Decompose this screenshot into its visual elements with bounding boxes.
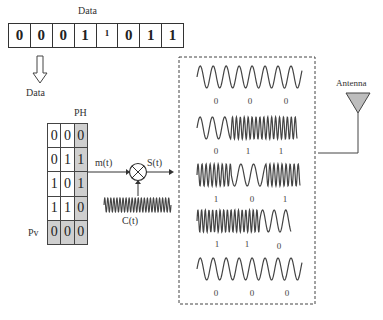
waveform-bit-label: 1 (279, 146, 284, 156)
waveform-bit-label: 0 (214, 288, 219, 298)
fsk-waveform (197, 210, 291, 232)
fsk-waveform (197, 258, 302, 280)
antenna-icon (318, 93, 370, 153)
waveform-bit-label: 1 (246, 146, 251, 156)
fsk-waveform (197, 164, 300, 186)
waveform-bit-label: 0 (250, 288, 255, 298)
m-t-label: m(t) (95, 157, 112, 168)
waveform-bit-label: 1 (245, 239, 250, 249)
waveform-bit-label: 0 (248, 96, 253, 106)
waveform-bit-label: 0 (214, 96, 219, 106)
waveform-bit-label: 0 (285, 288, 290, 298)
waveform-bit-label: 1 (283, 194, 288, 204)
waveform-bit-label: 1 (215, 239, 220, 249)
c-t-label: C(t) (122, 215, 138, 226)
waveform-bit-label: 0 (214, 146, 219, 156)
waveform-bit-label: 0 (250, 194, 255, 204)
antenna-label: Antenna (336, 78, 367, 88)
modulator-diagram (0, 0, 383, 320)
fsk-waveform (197, 117, 297, 139)
waveform-bit-label: 1 (214, 194, 219, 204)
carrier-wave (104, 198, 171, 212)
s-t-label: S(t) (147, 157, 162, 168)
waveform-bit-label: 0 (277, 241, 282, 251)
waveform-bit-label: 0 (284, 96, 289, 106)
fsk-waveform (197, 66, 302, 88)
mixer-icon (130, 164, 147, 181)
